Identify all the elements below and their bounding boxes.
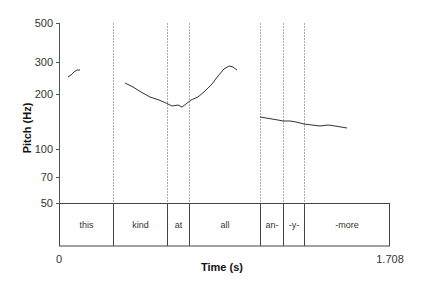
segment-y: -y- (289, 220, 300, 230)
ytick-100: 100 (35, 143, 53, 155)
contour-2 (125, 66, 237, 107)
ytick-200: 200 (35, 88, 53, 100)
segment-kind: kind (132, 220, 149, 230)
segment-boundaries (114, 23, 305, 203)
ytick-300: 300 (35, 56, 53, 68)
xtick-start: 0 (56, 253, 62, 265)
segment-at: at (175, 220, 183, 230)
segment-more: -more (335, 220, 359, 230)
segment-this: this (79, 220, 94, 230)
y-ticks: 500 300 200 100 70 50 (35, 17, 60, 209)
y-axis-label: Pitch (Hz) (21, 102, 33, 153)
pitch-contours (68, 66, 347, 128)
ytick-500: 500 (35, 17, 53, 29)
ytick-50: 50 (41, 197, 53, 209)
contour-3 (260, 117, 347, 128)
segment-an: an- (265, 220, 278, 230)
ytick-70: 70 (41, 171, 53, 183)
segment-all: all (220, 220, 229, 230)
pitch-chart: 500 300 200 100 70 50 Pitch (Hz) this ki… (0, 0, 424, 286)
xtick-end: 1.708 (376, 253, 404, 265)
segment-tier: this kind at all an- -y- -more (60, 204, 390, 247)
contour-1 (68, 70, 80, 77)
x-axis-label: Time (s) (201, 261, 243, 273)
